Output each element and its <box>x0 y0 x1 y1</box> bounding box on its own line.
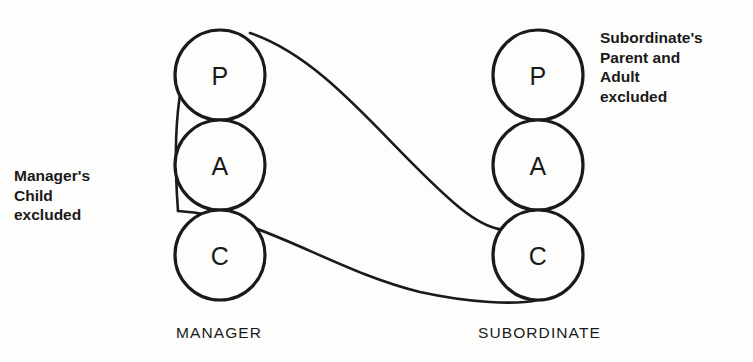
subordinate-exclusion-note: Subordinate's Parent and Adult excluded <box>600 28 703 106</box>
manager-child-label: C <box>211 242 230 270</box>
subordinate-column-caption: SUBORDINATE <box>478 324 601 342</box>
manager-adult-label: A <box>211 152 228 180</box>
diagram-page: P A C P A C Manager's Child excluded Sub… <box>0 0 753 362</box>
manager-column-caption: MANAGER <box>176 324 262 342</box>
manager-parent-label: P <box>211 62 228 90</box>
subordinate-child-label: C <box>529 242 548 270</box>
subordinate-adult-label: A <box>529 152 546 180</box>
subordinate-parent-label: P <box>529 62 546 90</box>
manager-exclusion-note: Manager's Child excluded <box>14 166 90 225</box>
